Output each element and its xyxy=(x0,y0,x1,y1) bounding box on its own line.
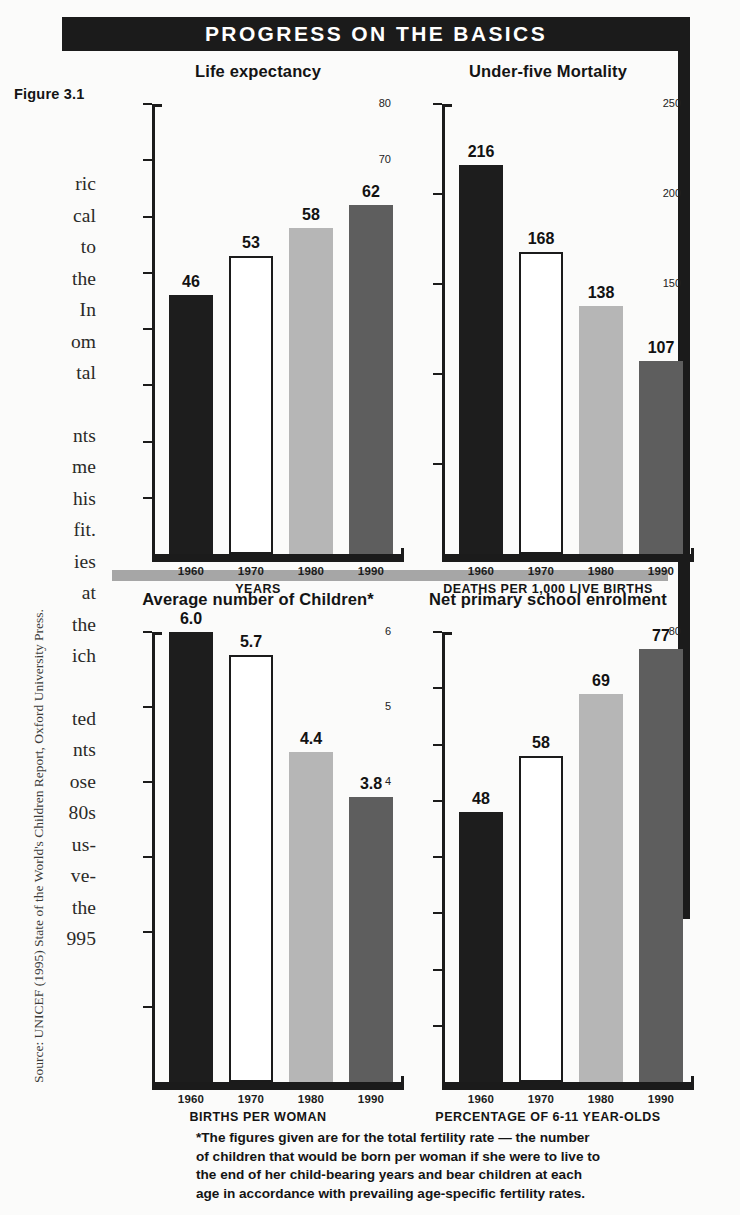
bar-item[interactable]: 6.0 xyxy=(169,632,213,1082)
bar-item[interactable]: 58 xyxy=(519,632,563,1082)
body-text-line: ve- xyxy=(0,860,96,892)
x-axis-labels: 1960197019801990 xyxy=(169,1093,393,1105)
bar-1960[interactable] xyxy=(459,812,503,1082)
x-axis-tick-label: 1980 xyxy=(289,565,333,577)
x-axis-tick-label: 1960 xyxy=(169,565,213,577)
x-axis xyxy=(442,1082,694,1090)
x-axis-end-cap xyxy=(401,1076,404,1090)
bar-1970[interactable] xyxy=(229,256,273,554)
y-axis-tick xyxy=(143,328,152,330)
y-axis-tick xyxy=(143,216,152,218)
body-text-line: nts xyxy=(0,420,96,452)
x-axis xyxy=(152,554,404,562)
x-axis-tick-label: 1960 xyxy=(459,565,503,577)
bar-item[interactable]: 5.7 xyxy=(229,632,273,1082)
bar-1980[interactable] xyxy=(579,306,623,554)
bar-1970[interactable] xyxy=(229,655,273,1083)
bar-group: 6.05.74.43.8 xyxy=(155,632,393,1082)
bar-item[interactable]: 168 xyxy=(519,104,563,554)
body-text-line: his xyxy=(0,483,96,515)
body-text-line: to xyxy=(0,231,96,263)
bar-1990[interactable] xyxy=(349,797,393,1082)
bar-item[interactable]: 62 xyxy=(349,104,393,554)
bar-item[interactable]: 53 xyxy=(229,104,273,554)
bar-value-label: 58 xyxy=(289,207,333,223)
y-axis-tick xyxy=(433,631,442,633)
bar-1990[interactable] xyxy=(639,649,683,1082)
body-text-column: riccaltotheInomtal ntsmehisfit.iesatthei… xyxy=(0,168,96,955)
body-text-line: In xyxy=(0,294,96,326)
y-axis-tick xyxy=(143,1006,152,1008)
bar-item[interactable]: 58 xyxy=(289,104,333,554)
y-axis-tick xyxy=(433,856,442,858)
bar-value-label: 168 xyxy=(519,231,563,247)
figure-label: Figure 3.1 xyxy=(14,86,85,102)
y-axis-tick xyxy=(143,441,152,443)
bar-item[interactable]: 46 xyxy=(169,104,213,554)
bar-1990[interactable] xyxy=(349,205,393,554)
chart-title: Net primary school enrolment xyxy=(422,590,674,609)
section-banner: PROGRESS ON THE BASICS xyxy=(62,17,690,51)
x-axis-tick-label: 1960 xyxy=(459,1093,503,1105)
x-axis-end-cap xyxy=(691,1076,694,1090)
bar-1970[interactable] xyxy=(519,252,563,554)
body-paragraph-3: tedntsose80sus-ve-the995 xyxy=(0,703,96,955)
x-axis-tick-label: 1980 xyxy=(579,565,623,577)
bar-item[interactable]: 48 xyxy=(459,632,503,1082)
bar-item[interactable]: 4.4 xyxy=(289,632,333,1082)
plot-area: 01234566.05.74.43.8 xyxy=(152,632,404,1082)
figure-footnote: *The figures given are for the total fer… xyxy=(196,1129,646,1203)
body-text-line: ies xyxy=(0,546,96,578)
body-text-line: 995 xyxy=(0,923,96,955)
chart-title: Average number of Children* xyxy=(132,590,384,609)
body-text-line: ose xyxy=(0,766,96,798)
bar-item[interactable]: 69 xyxy=(579,632,623,1082)
bar-item[interactable]: 138 xyxy=(579,104,623,554)
y-axis-tick xyxy=(143,384,152,386)
bar-1960[interactable] xyxy=(169,295,213,554)
bar-value-label: 62 xyxy=(349,184,393,200)
body-text-line: 80s xyxy=(0,797,96,829)
source-credit: Source: UNICEF (1995) State of the World… xyxy=(31,613,47,1083)
x-axis-labels: 1960197019801990 xyxy=(459,1093,683,1105)
bar-item[interactable]: 216 xyxy=(459,104,503,554)
y-axis-tick xyxy=(433,373,442,375)
body-text-line: us- xyxy=(0,829,96,861)
footnote-line: *The figures given are for the total fer… xyxy=(196,1129,646,1148)
bar-1980[interactable] xyxy=(289,752,333,1082)
bar-1970[interactable] xyxy=(519,756,563,1082)
body-text-line: cal xyxy=(0,200,96,232)
bar-item[interactable]: 107 xyxy=(639,104,683,554)
y-axis-tick xyxy=(143,272,152,274)
footnote-line: of children that would be born per woman… xyxy=(196,1148,646,1167)
x-axis-tick-label: 1970 xyxy=(519,1093,563,1105)
footnote-line: age in accordance with prevailing age-sp… xyxy=(196,1185,646,1204)
bar-1980[interactable] xyxy=(289,228,333,554)
bar-value-label: 77 xyxy=(639,628,683,644)
y-axis-tick xyxy=(433,1025,442,1027)
body-text-line: ich xyxy=(0,640,96,672)
bar-value-label: 107 xyxy=(639,340,683,356)
bar-1990[interactable] xyxy=(639,361,683,554)
y-axis-tick xyxy=(143,781,152,783)
y-axis-tick xyxy=(143,159,152,161)
plot-area: 0102030405060708046535862 xyxy=(152,104,404,554)
bar-1980[interactable] xyxy=(579,694,623,1082)
y-axis-tick xyxy=(143,856,152,858)
y-axis-tick xyxy=(433,463,442,465)
bar-value-label: 138 xyxy=(579,285,623,301)
x-axis-tick-label: 1990 xyxy=(349,565,393,577)
bar-item[interactable]: 3.8 xyxy=(349,632,393,1082)
y-axis-tick xyxy=(433,193,442,195)
bar-group: 216168138107 xyxy=(445,104,683,554)
bar-value-label: 58 xyxy=(519,735,563,751)
body-paragraph-2: ntsmehisfit.iesattheich xyxy=(0,420,96,672)
x-axis-tick-label: 1960 xyxy=(169,1093,213,1105)
bar-1960[interactable] xyxy=(169,632,213,1082)
y-axis-tick xyxy=(143,931,152,933)
bar-item[interactable]: 77 xyxy=(639,632,683,1082)
x-axis-end-cap xyxy=(401,548,404,562)
bar-value-label: 5.7 xyxy=(229,634,273,650)
bar-1960[interactable] xyxy=(459,165,503,554)
chart-title: Under-five Mortality xyxy=(422,62,674,81)
